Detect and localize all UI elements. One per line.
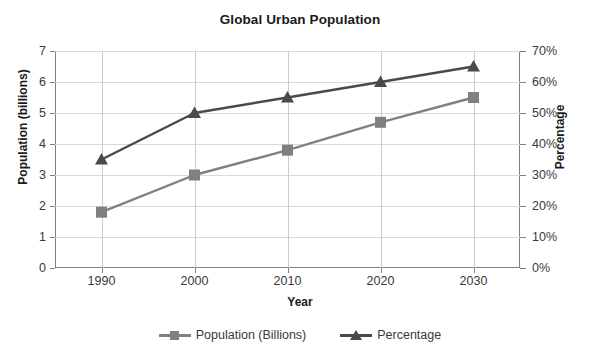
x-axis-tick <box>195 268 196 273</box>
y-axis-right-tick <box>520 82 526 83</box>
y-axis-right-tick <box>520 175 526 176</box>
y-axis-left-tick-label: 1 <box>12 230 46 244</box>
vertical-gridline <box>474 51 475 268</box>
y-axis-right-tick-label: 70% <box>532 44 576 58</box>
y-axis-left-tick <box>50 113 55 114</box>
y-axis-right-tick <box>520 268 526 269</box>
chart-container: Global Urban Population 01234567 0%10%20… <box>0 0 600 364</box>
y-axis-left-tick <box>50 237 55 238</box>
legend-item-2[interactable]: Percentage <box>340 328 441 342</box>
y-axis-right-tick <box>520 206 526 207</box>
x-axis-tick-label: 2010 <box>274 274 302 288</box>
vertical-gridline <box>195 51 196 268</box>
x-axis-tick <box>102 268 103 273</box>
y-axis-left-tick <box>50 51 55 52</box>
x-axis-title: Year <box>0 295 600 309</box>
x-axis-tick <box>474 268 475 273</box>
y-axis-left-title: Population (billions) <box>16 52 30 202</box>
y-axis-right-tick-label: 10% <box>532 230 576 244</box>
chart-title: Global Urban Population <box>0 12 600 27</box>
legend-marker-triangle-icon <box>350 330 362 340</box>
y-axis-right-tick <box>520 51 526 52</box>
y-axis-right-tick <box>520 237 526 238</box>
legend-swatch <box>340 329 372 341</box>
y-axis-left-tick <box>50 82 55 83</box>
y-axis-right-tick <box>520 144 526 145</box>
x-axis-tick <box>381 268 382 273</box>
vertical-gridline <box>288 51 289 268</box>
legend-item-1[interactable]: Population (Billions) <box>159 328 306 342</box>
y-axis-left-tick <box>50 268 55 269</box>
x-axis-tick-label: 2020 <box>367 274 395 288</box>
y-axis-left-tick-label: 0 <box>12 261 46 275</box>
clipped-top-text <box>0 0 600 7</box>
plot-area <box>55 51 520 268</box>
y-axis-left-tick <box>50 144 55 145</box>
chart-legend: Population (Billions)Percentage <box>0 328 600 342</box>
legend-label: Percentage <box>377 328 441 342</box>
y-axis-right-title: Percentage <box>553 82 567 192</box>
vertical-gridline <box>381 51 382 268</box>
y-axis-right-tick-label: 20% <box>532 199 576 213</box>
legend-swatch <box>159 329 191 341</box>
x-axis-tick <box>288 268 289 273</box>
legend-label: Population (Billions) <box>196 328 306 342</box>
x-axis-tick-label: 2000 <box>181 274 209 288</box>
x-axis-tick-label: 2030 <box>460 274 488 288</box>
y-axis-left-tick <box>50 175 55 176</box>
x-axis-tick-label: 1990 <box>88 274 116 288</box>
y-axis-left-tick <box>50 206 55 207</box>
y-axis-right-tick <box>520 113 526 114</box>
y-axis-right-tick-label: 0% <box>532 261 576 275</box>
vertical-gridline <box>102 51 103 268</box>
legend-marker-square-icon <box>170 331 179 340</box>
